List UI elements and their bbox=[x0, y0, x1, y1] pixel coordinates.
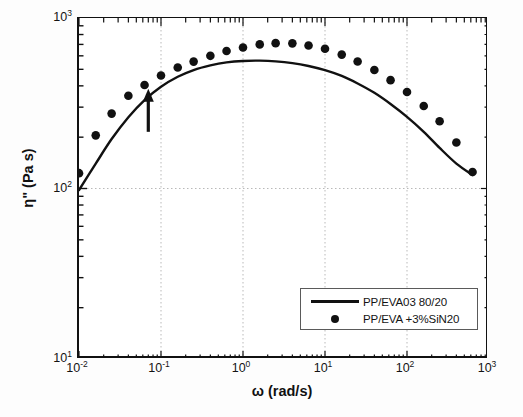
y-tick-1000: 103 bbox=[53, 10, 72, 24]
legend-label-ppeva03: PP/EVA03 80/20 bbox=[363, 296, 447, 308]
legend-dot-swatch bbox=[307, 315, 363, 323]
legend-label-ppeva-sin20: PP/EVA +3%SiN20 bbox=[363, 313, 459, 325]
y-axis-title-units: (Pa s) bbox=[20, 148, 36, 188]
x-tick-1000: 103 bbox=[478, 361, 497, 375]
legend: PP/EVA03 80/20 PP/EVA +3%SiN20 bbox=[300, 288, 478, 330]
y-axis-title: η" (Pa s) bbox=[20, 88, 36, 268]
legend-entry-dot: PP/EVA +3%SiN20 bbox=[301, 310, 477, 327]
y-tick-100: 102 bbox=[53, 181, 72, 195]
series-dots-ppeva-sin20 bbox=[79, 39, 477, 178]
series-line-ppeva03 bbox=[79, 61, 473, 190]
legend-entry-line: PP/EVA03 80/20 bbox=[301, 293, 477, 310]
arrow-annotation bbox=[143, 89, 154, 132]
x-tick-0.01: 10-2 bbox=[66, 361, 87, 375]
rheology-figure: 103 102 101 η" (Pa s) 10-2 10-1 100 101 … bbox=[0, 0, 523, 417]
y-axis-title-symbol: η" bbox=[20, 192, 36, 208]
y-axis-tick-labels: 103 102 101 bbox=[34, 0, 72, 417]
x-tick-0.1: 10-1 bbox=[148, 361, 169, 375]
x-axis-title: ω (rad/s) bbox=[77, 383, 487, 399]
x-tick-100: 102 bbox=[396, 361, 415, 375]
x-tick-10: 101 bbox=[314, 361, 333, 375]
x-tick-1: 100 bbox=[232, 361, 251, 375]
legend-line-swatch bbox=[307, 300, 363, 302]
